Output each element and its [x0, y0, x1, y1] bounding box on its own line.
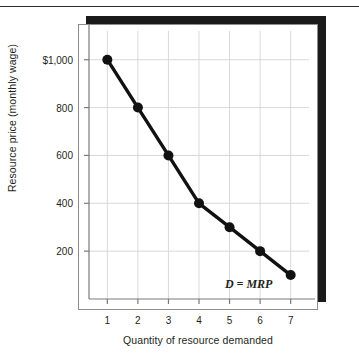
- axis-lines: [89, 25, 315, 299]
- y-axis-tickmarks: [84, 60, 89, 251]
- vertical-gridlines: [107, 31, 290, 299]
- x-tick-label: 6: [257, 315, 263, 326]
- demand-curve-label: D = MRP: [225, 277, 273, 292]
- y-tick-label: 800: [56, 102, 73, 113]
- y-tick-label: 200: [56, 246, 73, 257]
- x-tick-label: 7: [288, 315, 294, 326]
- y-tick-label: 600: [56, 150, 73, 161]
- x-tick-label: 4: [196, 315, 202, 326]
- resource-demand-chart-figure: $1,000800600400200 1234567 D = MRP Resou…: [0, 0, 359, 360]
- plot-area: $1,000800600400200 1234567 D = MRP: [79, 25, 317, 309]
- x-tick-label: 2: [135, 315, 141, 326]
- y-tick-label: 400: [56, 198, 73, 209]
- y-axis-title: Resource price (monthly wage): [6, 13, 18, 223]
- y-tick-label: $1,000: [42, 54, 73, 65]
- x-axis-title: Quantity of resource demanded: [78, 334, 318, 346]
- plot-frame: $1,000800600400200 1234567 D = MRP: [78, 24, 318, 310]
- x-tick-label: 1: [105, 315, 111, 326]
- x-tick-label: 5: [227, 315, 233, 326]
- x-tick-label: 3: [166, 315, 172, 326]
- x-axis-tickmarks: [107, 299, 290, 304]
- chart-svg: [79, 25, 317, 309]
